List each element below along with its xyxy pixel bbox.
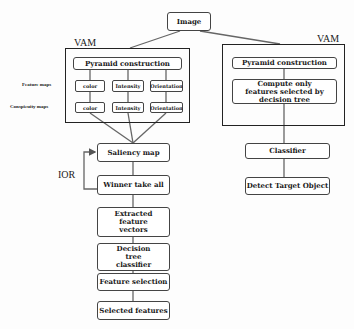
conspicuity-maps-label: Conspicuity maps: [10, 104, 48, 109]
diagram-canvas: Image VAM Pyramid construction Feature m…: [0, 0, 354, 329]
classifier-node: Classifier: [245, 143, 330, 159]
selected-features-node: Selected features: [97, 301, 170, 320]
extracted-feature-vectors-node: Extracted feature vectors: [97, 207, 170, 237]
conspicuity-map-orientation: Orientation: [150, 102, 183, 113]
winner-take-all-node: Winner take all: [97, 175, 170, 195]
feature-map-color: color: [75, 80, 105, 92]
left-vam-title: VAM: [74, 37, 96, 48]
feature-map-intensity: Intensity: [112, 80, 144, 92]
feature-selection-node: Feature selection: [97, 273, 170, 291]
saliency-map-node: Saliency map: [97, 143, 170, 162]
decision-tree-classifier-node: Decision tree classifier: [97, 243, 170, 271]
right-vam-title: VAM: [317, 33, 339, 44]
conspicuity-map-color: color: [75, 102, 105, 113]
detect-target-object-node: Detect Target Object: [245, 177, 330, 195]
left-pyramid-construction: Pyramid construction: [73, 57, 182, 70]
compute-selected-features-node: Compute only features selected by decisi…: [232, 79, 337, 104]
conspicuity-map-intensity: Intensity: [112, 102, 144, 113]
image-node: Image: [167, 12, 211, 31]
ior-label: IOR: [58, 169, 75, 180]
feature-map-orientation: Orientation: [150, 80, 183, 92]
right-pyramid-construction: Pyramid construction: [232, 57, 337, 69]
feature-maps-label: Feature maps: [22, 82, 51, 87]
